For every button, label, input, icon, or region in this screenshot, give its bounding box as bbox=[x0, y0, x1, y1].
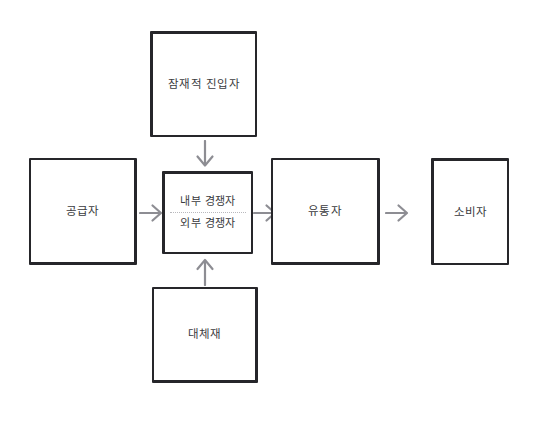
competitors-divider bbox=[170, 212, 246, 214]
node-supplier[interactable]: 공급자 bbox=[29, 158, 137, 265]
node-distributor[interactable]: 유통자 bbox=[271, 158, 380, 265]
node-label-external-competitors: 외부 경쟁자 bbox=[180, 216, 235, 232]
arrow-substitutes-to-competitors bbox=[192, 258, 218, 286]
node-label-substitutes: 대체재 bbox=[188, 326, 222, 343]
node-potential-entrants[interactable]: 잠재적 진입자 bbox=[150, 31, 257, 137]
node-label-consumer: 소비자 bbox=[454, 204, 488, 221]
node-competitors[interactable]: 내부 경쟁자 외부 경쟁자 bbox=[162, 171, 253, 254]
arrow-entrants-to-competitors bbox=[192, 140, 218, 168]
node-label-supplier: 공급자 bbox=[66, 203, 100, 220]
arrow-supplier-to-competitors bbox=[139, 200, 163, 226]
diagram-canvas: 잠재적 진입자 공급자 내부 경쟁자 외부 경쟁자 bbox=[0, 0, 540, 435]
node-label-distributor: 유통자 bbox=[308, 203, 342, 220]
arrow-distributor-to-consumer bbox=[385, 200, 409, 226]
node-consumer[interactable]: 소비자 bbox=[431, 158, 509, 265]
node-substitutes[interactable]: 대체재 bbox=[152, 287, 258, 383]
node-label-potential-entrants: 잠재적 진입자 bbox=[168, 76, 240, 93]
node-label-internal-competitors: 내부 경쟁자 bbox=[180, 194, 235, 210]
